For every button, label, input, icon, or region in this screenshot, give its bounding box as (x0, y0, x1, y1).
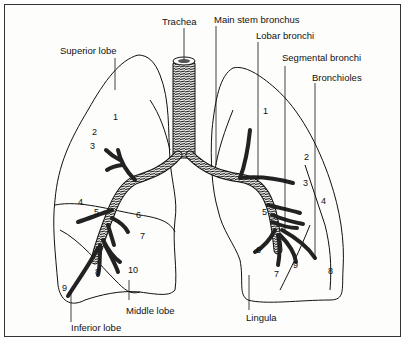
label-superior-lobe: Superior lobe (60, 46, 117, 56)
label-lingula: Lingula (246, 313, 277, 323)
right-segment-3: 3 (90, 142, 95, 151)
right-segment-4: 4 (78, 198, 83, 207)
right-segment-10: 10 (128, 266, 138, 275)
label-lobar-bronchi: Lobar bronchi (256, 31, 314, 41)
label-inferior-lobe: Inferior lobe (71, 323, 121, 333)
label-segmental-bronchi: Segmental bronchi (282, 53, 361, 63)
left-segment-5: 5 (262, 208, 267, 217)
left-segment-3: 3 (303, 179, 308, 188)
left-segment-7: 7 (274, 270, 279, 279)
right-segment-9: 9 (62, 284, 67, 293)
label-trachea: Trachea (162, 17, 197, 27)
right-segment-7: 7 (140, 232, 145, 241)
label-bronchioles: Bronchioles (312, 73, 362, 83)
left-segment-8: 8 (328, 267, 333, 276)
left-segment-2: 2 (304, 153, 309, 162)
label-main-stem-bronchus: Main stem bronchus (214, 15, 300, 25)
left-segment-9: 9 (293, 261, 298, 270)
right-segment-2: 2 (92, 128, 97, 137)
left-segment-4: 4 (321, 197, 326, 206)
right-segment-1: 1 (113, 113, 118, 122)
right-segment-6: 6 (136, 211, 141, 220)
label-middle-lobe: Middle lobe (126, 306, 175, 316)
right-segment-5: 5 (94, 208, 99, 217)
left-lung-outline (211, 67, 343, 302)
trachea-shape (173, 57, 195, 158)
right-segment-8: 8 (95, 268, 100, 277)
left-segment-6: 6 (256, 246, 261, 255)
left-segment-1: 1 (263, 107, 268, 116)
